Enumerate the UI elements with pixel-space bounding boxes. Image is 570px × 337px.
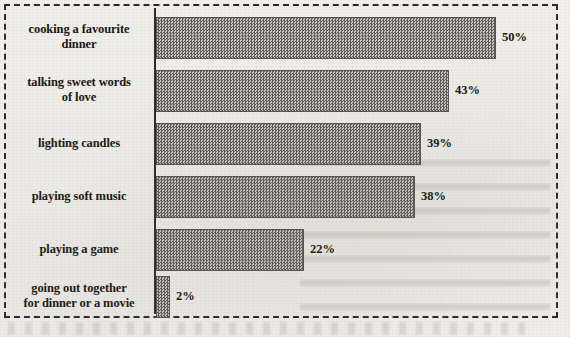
bar-category-label-line1: lighting candles [38, 136, 120, 150]
bar-value-label: 50% [502, 30, 527, 45]
bar-category-label-line2: for dinner or a movie [23, 296, 134, 310]
bar-value-label: 22% [310, 242, 335, 257]
bar-category-label: lighting candles [6, 136, 152, 151]
bar-category-label: talking sweet words of love [6, 75, 152, 105]
bar-category-label-line1: cooking a favourite [29, 22, 130, 36]
bar-value-label: 2% [176, 289, 195, 304]
horizontal-bar-chart: cooking a favourite dinner 50% talking s… [0, 0, 570, 337]
bar-value-label: 39% [427, 136, 452, 151]
category-axis-line [154, 8, 156, 314]
bar-value-label: 43% [455, 83, 480, 98]
bar-shape [156, 276, 170, 318]
bar-category-label-line1: talking sweet words [27, 75, 131, 89]
bar-category-label-line2: dinner [62, 37, 97, 51]
bar-shape [156, 17, 496, 59]
bar-category-label-line2: of love [62, 90, 96, 104]
bar-category-label: cooking a favourite dinner [6, 22, 152, 52]
bar-category-label: playing soft music [6, 189, 152, 204]
bar-category-label-line1: playing soft music [32, 189, 127, 203]
bar-row: going out together for dinner or a movie… [0, 271, 570, 323]
bar-shape [156, 123, 421, 165]
bar-row: lighting candles 39% [0, 118, 570, 170]
bars-area: cooking a favourite dinner 50% talking s… [0, 0, 570, 337]
bar-category-label-line1: playing a game [39, 242, 118, 256]
bar-shape [156, 176, 415, 218]
bar-row: talking sweet words of love 43% [0, 65, 570, 117]
bar-row: cooking a favourite dinner 50% [0, 12, 570, 64]
bar-category-label: going out together for dinner or a movie [6, 281, 152, 311]
bar-shape [156, 229, 304, 271]
bar-category-label-line1: going out together [31, 281, 126, 295]
bar-row: playing soft music 38% [0, 171, 570, 223]
bar-value-label: 38% [421, 189, 446, 204]
bar-category-label: playing a game [6, 242, 152, 257]
bar-shape [156, 70, 449, 112]
bar-row: playing a game 22% [0, 224, 570, 276]
